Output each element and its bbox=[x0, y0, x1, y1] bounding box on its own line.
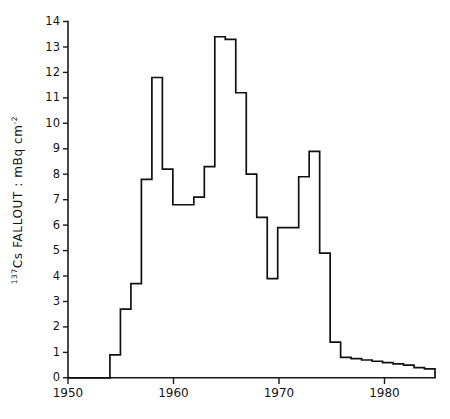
y-tick-label: 12 bbox=[45, 65, 60, 79]
y-axis-label: 137Cs FALLOUT : mBq cm-2 bbox=[10, 116, 25, 285]
x-tick-labels: 1950 1960 1970 1980 bbox=[53, 386, 400, 400]
y-tick-label: 10 bbox=[45, 116, 60, 130]
fallout-step-series bbox=[68, 37, 435, 378]
y-tick-label: 5 bbox=[53, 243, 60, 257]
y-tick-label: 9 bbox=[53, 141, 60, 155]
x-axis-ticks bbox=[68, 378, 385, 384]
y-tick-labels: 14 13 12 11 10 9 8 7 6 5 4 3 2 1 0 bbox=[45, 14, 60, 384]
y-tick-label: 8 bbox=[53, 167, 60, 181]
x-tick-label: 1950 bbox=[53, 386, 84, 400]
y-tick-label: 0 bbox=[53, 370, 60, 384]
y-tick-label: 4 bbox=[53, 269, 60, 283]
y-tick-label: 6 bbox=[53, 218, 60, 232]
x-tick-label: 1960 bbox=[158, 386, 189, 400]
svg-text:137Cs FALLOUT : mBq cm-2: 137Cs FALLOUT : mBq cm-2 bbox=[10, 116, 25, 285]
y-tick-label: 14 bbox=[45, 14, 60, 28]
y-tick-label: 3 bbox=[53, 294, 60, 308]
chart-figure: 137Cs FALLOUT : mBq cm-2 14 13 12 11 10 … bbox=[0, 0, 450, 419]
y-tick-label: 2 bbox=[53, 319, 60, 333]
y-axis-label-element: Cs bbox=[11, 252, 25, 268]
y-tick-label: 1 bbox=[53, 345, 60, 359]
y-tick-label: 11 bbox=[45, 90, 60, 104]
cs137-fallout-step-chart: 137Cs FALLOUT : mBq cm-2 14 13 12 11 10 … bbox=[0, 0, 450, 419]
axis-lines bbox=[68, 22, 435, 378]
y-axis-label-unit-exponent: -2 bbox=[10, 116, 19, 125]
y-tick-label: 13 bbox=[45, 40, 60, 54]
y-axis-label-word: FALLOUT : mBq cm bbox=[11, 124, 25, 252]
x-tick-label: 1970 bbox=[264, 386, 295, 400]
x-tick-label: 1980 bbox=[369, 386, 400, 400]
y-axis-label-isotope: 137 bbox=[10, 268, 19, 284]
y-tick-label: 7 bbox=[53, 192, 60, 206]
